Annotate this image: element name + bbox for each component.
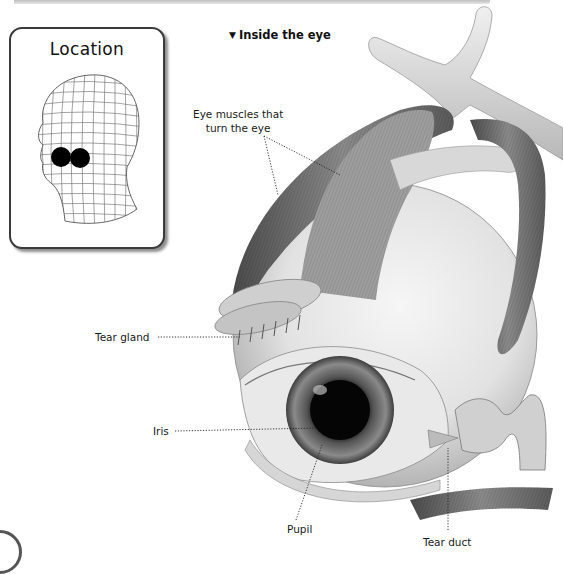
- leader-line-muscles-b: [264, 136, 278, 195]
- label-tear-duct: Tear duct: [423, 535, 471, 549]
- label-eye-muscles-line2: turn the eye: [193, 121, 283, 135]
- label-tear-gland: Tear gland: [95, 330, 150, 344]
- label-pupil: Pupil: [287, 522, 312, 536]
- label-eye-muscles-line1: Eye muscles that: [193, 107, 283, 121]
- label-eye-muscles: Eye muscles that turn the eye: [193, 107, 283, 135]
- label-iris: Iris: [153, 424, 169, 438]
